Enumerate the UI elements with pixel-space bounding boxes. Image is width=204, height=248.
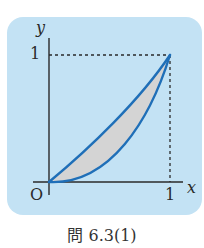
shaded-region	[49, 55, 170, 182]
x-axis-label: x	[187, 180, 196, 196]
y-axis-label: y	[36, 20, 45, 36]
origin-label: O	[30, 187, 43, 203]
upper-curve	[49, 55, 170, 182]
y-tick-label: 1	[30, 46, 40, 62]
figure-caption: 問 6.3(1)	[0, 222, 204, 246]
x-tick-label: 1	[165, 187, 175, 203]
graph	[0, 0, 204, 248]
lower-curve	[49, 55, 170, 182]
